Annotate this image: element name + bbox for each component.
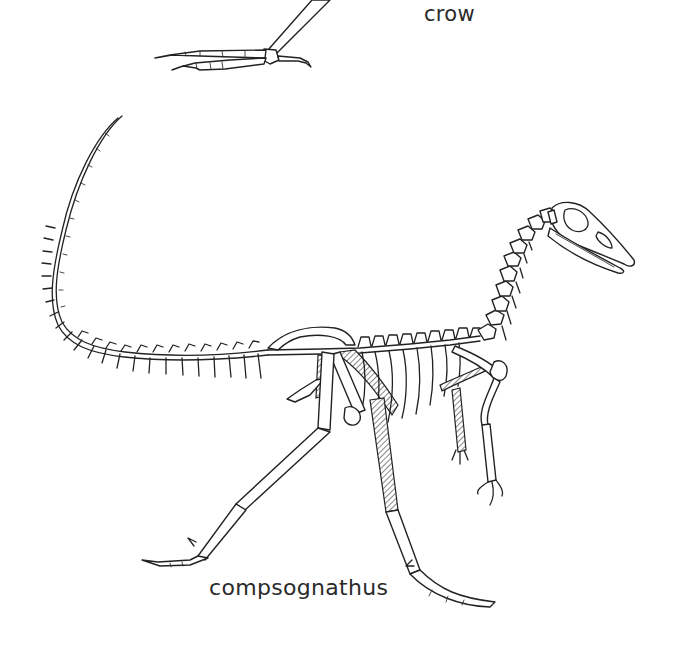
ilium: [268, 327, 355, 350]
illustration-canvas: crow compsognathus: [0, 0, 682, 650]
dorsal-spines: [358, 328, 482, 347]
forelimbs: [452, 378, 503, 505]
skeleton-illustration: [0, 0, 682, 650]
crow-label: crow: [424, 2, 475, 26]
compsognathus-skeleton: [42, 116, 634, 607]
tail-vertebrae: [59, 133, 109, 307]
compsognathus-label: compsognathus: [209, 575, 388, 600]
crow-foot: [155, 0, 330, 70]
tail-chevrons: [42, 226, 261, 378]
neck-vertebrae: [478, 208, 556, 340]
skull: [548, 202, 634, 273]
